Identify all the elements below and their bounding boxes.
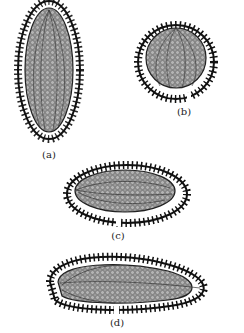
panel-d-drawing (50, 257, 204, 314)
panel-c-drawing (67, 165, 187, 226)
panel-b-label: (b) (177, 106, 191, 117)
panel-d-label: (d) (110, 317, 124, 328)
panel-a-drawing (18, 1, 80, 139)
embryo-diagram (0, 0, 244, 333)
panel-a-label: (a) (42, 149, 56, 160)
panel-b-drawing (138, 25, 214, 101)
panel-c-label: (c) (111, 230, 124, 241)
